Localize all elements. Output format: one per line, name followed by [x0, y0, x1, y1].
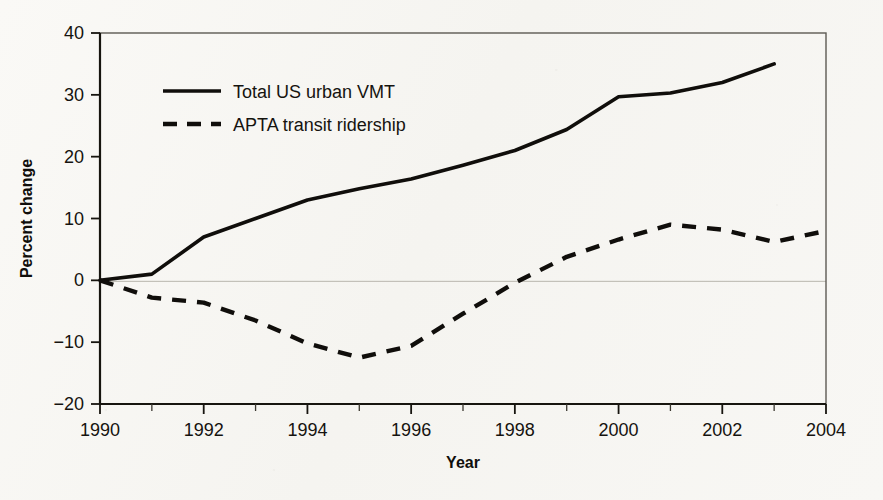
y-axis-title: Percent change	[18, 159, 35, 278]
series-line-2	[100, 225, 826, 358]
x-axis-ticks	[100, 404, 826, 414]
x-tick-label: 1992	[184, 420, 224, 440]
series-line-1	[100, 64, 774, 280]
y-tick-label: 10	[64, 209, 84, 229]
y-axis-ticks	[91, 33, 100, 404]
figure-container: 19901992199419961998200020022004 −20−100…	[0, 0, 883, 500]
legend-label-1: Total US urban VMT	[233, 82, 395, 102]
x-tick-label: 1996	[391, 420, 431, 440]
data-series-layer	[100, 64, 826, 358]
y-tick-label: 20	[64, 147, 84, 167]
y-tick-label: −20	[53, 394, 84, 414]
x-tick-label: 2000	[599, 420, 639, 440]
y-tick-label: −10	[53, 332, 84, 352]
y-tick-label: 30	[64, 85, 84, 105]
plot-area-frame	[100, 33, 826, 404]
y-tick-label: 0	[74, 270, 84, 290]
x-tick-label: 2002	[702, 420, 742, 440]
x-axis-tick-labels: 19901992199419961998200020022004	[80, 420, 846, 440]
line-chart: 19901992199419961998200020022004 −20−100…	[0, 0, 883, 500]
y-axis-tick-labels: −20−10010203040	[53, 23, 84, 414]
x-tick-label: 1990	[80, 420, 120, 440]
x-tick-label: 1994	[287, 420, 327, 440]
y-tick-label: 40	[64, 23, 84, 43]
legend-label-2: APTA transit ridership	[233, 115, 406, 135]
x-tick-label: 1998	[495, 420, 535, 440]
chart-legend: Total US urban VMTAPTA transit ridership	[163, 82, 406, 135]
x-axis-title: Year	[446, 454, 480, 471]
x-tick-label: 2004	[806, 420, 846, 440]
